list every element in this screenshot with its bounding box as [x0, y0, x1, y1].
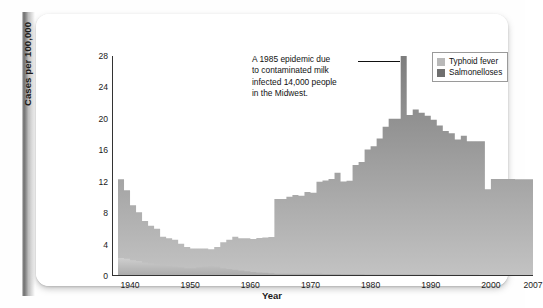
- y-tick-label: 20: [86, 114, 108, 124]
- y-axis-label: Cases per 100,000: [22, 22, 33, 106]
- y-tick-label: 28: [86, 51, 108, 61]
- legend-label-salmonelloses: Salmonelloses: [449, 68, 502, 77]
- x-tick-label: 2007: [523, 280, 542, 290]
- x-tick-label: 1960: [241, 280, 260, 290]
- chart-annotation: A 1985 epidemic due to contaminated milk…: [252, 54, 380, 100]
- x-tick-label: 1990: [421, 280, 440, 290]
- annotation-line-4: in the Midwest.: [252, 88, 380, 99]
- x-tick-label: 1940: [120, 280, 139, 290]
- figure-card: Cases per 100,000 0481216202428: [36, 14, 508, 286]
- y-tick-label: 8: [86, 208, 108, 218]
- y-tick-label: 24: [86, 82, 108, 92]
- annotation-line-3: infected 14,000 people: [252, 77, 380, 88]
- legend-swatch-typhoid-fever: [437, 58, 445, 66]
- x-tick-label: 1970: [301, 280, 320, 290]
- chart-legend: Typhoid fever Salmonelloses: [432, 52, 508, 82]
- legend-label-typhoid-fever: Typhoid fever: [449, 57, 498, 66]
- y-tick-label: 16: [86, 145, 108, 155]
- annotation-line-1: A 1985 epidemic due: [252, 54, 380, 65]
- annotation-line-2: to contaminated milk: [252, 65, 380, 76]
- x-tick-label: 1950: [181, 280, 200, 290]
- y-tick-label: 12: [86, 177, 108, 187]
- y-tick-label: 4: [86, 240, 108, 250]
- figure-card-inner: Cases per 100,000 0481216202428: [36, 14, 508, 286]
- x-tick-label: 1980: [361, 280, 380, 290]
- y-tick-label: 0: [86, 271, 108, 281]
- legend-item-typhoid-fever: Typhoid fever: [437, 56, 502, 67]
- legend-item-salmonelloses: Salmonelloses: [437, 67, 502, 78]
- y-axis-tick-labels: 0481216202428: [84, 56, 108, 276]
- legend-swatch-salmonelloses: [437, 69, 445, 77]
- x-axis-label: Year: [36, 290, 508, 301]
- x-tick-label: 2000: [481, 280, 500, 290]
